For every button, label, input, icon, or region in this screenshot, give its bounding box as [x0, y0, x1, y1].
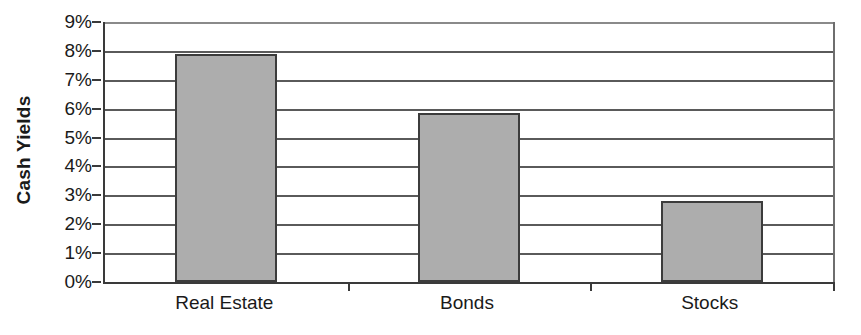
y-axis-tick-mark	[92, 194, 101, 196]
y-axis-tick-label: 9%	[65, 11, 92, 33]
y-axis-tick-label: 3%	[65, 184, 92, 206]
y-axis-tick-label: 2%	[65, 213, 92, 235]
plot-area	[103, 22, 835, 284]
y-axis-tick-mark	[92, 137, 101, 139]
bar-bonds	[418, 113, 520, 282]
gridline	[105, 22, 833, 24]
y-axis-tick-label: 0%	[65, 271, 92, 293]
y-axis-tick-mark	[92, 108, 101, 110]
y-axis-tick-mark	[92, 50, 101, 52]
x-axis-tick-mark	[833, 282, 835, 291]
y-axis-tick-label: 6%	[65, 98, 92, 120]
y-axis-tick-mark	[92, 281, 101, 283]
y-axis-tick-label: 1%	[65, 242, 92, 264]
x-axis-tick-label: Stocks	[681, 292, 738, 314]
x-axis-tick-labels: Real EstateBondsStocks	[103, 292, 835, 326]
x-axis-tick-mark	[590, 282, 592, 291]
x-axis-tick-label: Bonds	[440, 292, 494, 314]
bar-real-estate	[175, 54, 277, 282]
y-axis-tick-labels: 0%1%2%3%4%5%6%7%8%9%	[44, 22, 98, 282]
y-axis-title: Cash Yields	[0, 0, 48, 300]
y-axis-tick-mark	[92, 165, 101, 167]
y-axis-title-label: Cash Yields	[13, 96, 35, 205]
bar-stocks	[661, 201, 763, 282]
y-axis-tick-label: 5%	[65, 127, 92, 149]
y-axis-tick-mark	[92, 21, 101, 23]
y-axis-tick-mark	[92, 223, 101, 225]
x-axis-tick-label: Real Estate	[175, 292, 273, 314]
y-axis-tick-mark	[92, 252, 101, 254]
y-axis-tick-label: 8%	[65, 40, 92, 62]
x-axis-tick-mark	[348, 282, 350, 291]
gridline	[105, 51, 833, 53]
bar-chart: Cash Yields 0%1%2%3%4%5%6%7%8%9% Real Es…	[0, 0, 861, 335]
y-axis-tick-label: 7%	[65, 69, 92, 91]
y-axis-tick-label: 4%	[65, 155, 92, 177]
y-axis-tick-mark	[92, 79, 101, 81]
